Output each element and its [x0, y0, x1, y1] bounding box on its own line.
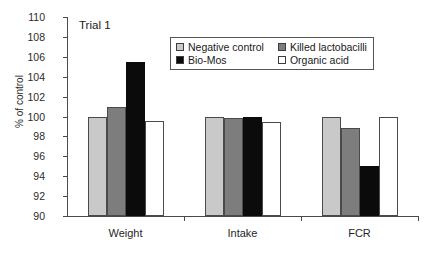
legend-item-killed-lactobacilli: Killed lactobacilli [278, 41, 367, 53]
y-axis-tick [63, 136, 67, 137]
y-axis-tick-label: 90 [19, 211, 45, 221]
legend-item-organic-acid: Organic acid [278, 54, 367, 66]
y-axis-tick-label: 100 [19, 112, 45, 122]
x-axis-category-label: Intake [184, 227, 301, 239]
bar [126, 62, 145, 216]
y-axis-tick [63, 156, 67, 157]
y-axis-tick-label: 92 [19, 191, 45, 201]
bar-chart-figure: % of control Trial 1 Negative control Ki… [0, 0, 435, 261]
x-axis-tick [184, 216, 185, 221]
y-axis-tick-label: 96 [19, 151, 45, 161]
y-axis-tick-label: 110 [19, 12, 45, 22]
legend-label: Negative control [188, 41, 264, 53]
x-axis-tick [301, 216, 302, 221]
y-axis-tick [63, 176, 67, 177]
legend-item-bio-mos: Bio-Mos [176, 54, 264, 66]
chart-title: Trial 1 [79, 19, 111, 31]
bar [322, 117, 341, 217]
bar [379, 117, 398, 217]
legend-label: Bio-Mos [188, 54, 227, 66]
bar [243, 117, 262, 217]
light-gray-swatch-icon [176, 43, 184, 51]
medium-gray-swatch-icon [278, 43, 286, 51]
chart-legend: Negative control Killed lactobacilli Bio… [170, 37, 374, 70]
bar [341, 128, 360, 216]
y-axis-tick-label: 102 [19, 92, 45, 102]
y-axis-tick [63, 196, 67, 197]
y-axis-tick [63, 216, 67, 217]
y-axis-tick [63, 77, 67, 78]
x-axis-category-label: Weight [67, 227, 184, 239]
x-axis-line [67, 216, 418, 217]
bar [107, 107, 126, 216]
y-axis-tick [63, 37, 67, 38]
y-axis-tick-label: 104 [19, 72, 45, 82]
legend-label: Organic acid [290, 54, 349, 66]
plot-area: Trial 1 Negative control Killed lactobac… [67, 17, 418, 216]
bar [205, 117, 224, 217]
y-axis-tick [63, 57, 67, 58]
y-axis-tick [63, 117, 67, 118]
y-axis-tick-label: 94 [19, 171, 45, 181]
bar [262, 122, 281, 216]
black-swatch-icon [176, 56, 184, 64]
y-axis-tick-label: 106 [19, 52, 45, 62]
legend-item-negative-control: Negative control [176, 41, 264, 53]
bar [224, 118, 243, 216]
bar [88, 117, 107, 217]
y-axis-tick-label: 108 [19, 32, 45, 42]
y-axis-line [67, 17, 68, 216]
bar [360, 166, 379, 216]
y-axis-tick [63, 17, 67, 18]
y-axis-tick [63, 97, 67, 98]
bar [145, 121, 164, 216]
white-swatch-icon [278, 56, 286, 64]
x-axis-tick [418, 216, 419, 221]
legend-label: Killed lactobacilli [290, 41, 367, 53]
y-axis-tick-label: 98 [19, 131, 45, 141]
x-axis-category-label: FCR [301, 227, 418, 239]
